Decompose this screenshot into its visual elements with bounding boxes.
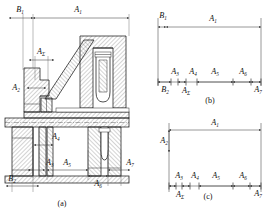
chain-b-label-ASigma: AΣ — [181, 86, 190, 96]
figure-svg: B1 A1 AΣ A2 A4 A3 A5 A6 A7 — [0, 0, 268, 214]
chain-b-label-A4: A4 — [188, 67, 197, 77]
upper-right-bore — [95, 52, 111, 102]
chain-c-label-A4: A4 — [190, 171, 199, 181]
dim-label-a-A2: A2 — [11, 83, 20, 93]
chain-b-label-B1: B1 — [159, 11, 167, 21]
caption-c: (c) — [204, 192, 213, 201]
horizontal-flange — [5, 118, 129, 127]
mid-right-plate — [56, 108, 129, 112]
left-rib-body — [39, 127, 46, 176]
panel-b: B1 A1 A3 A4 A5 A6 B2 AΣ A7 (b) — [158, 11, 262, 105]
base-plate — [5, 176, 129, 183]
dim-label-a-B1: B1 — [16, 5, 24, 15]
left-column-body — [12, 127, 33, 176]
caption-b: (b) — [205, 96, 215, 105]
right-boss-groove — [99, 128, 110, 132]
base-plate-body — [5, 176, 129, 183]
panel-a: B1 A1 AΣ A2 A4 A3 A5 A6 A7 — [2, 2, 134, 208]
dim-label-a-A7: A7 — [125, 158, 134, 168]
chain-c-label-ASigma: AΣ — [175, 190, 184, 200]
chain-b-label-B2: B2 — [161, 85, 169, 95]
dim-label-a-A5: A5 — [62, 158, 71, 168]
upper-base-strip-body — [24, 112, 129, 118]
left-housing-column — [12, 127, 33, 176]
right-boss-wall-left — [88, 127, 101, 176]
upper-base-strip — [24, 112, 129, 118]
dim-label-a-A4: A4 — [51, 132, 60, 142]
chain-c-label-A6: A6 — [238, 171, 247, 181]
chain-b-label-A1: A1 — [208, 14, 217, 24]
chain-c-label-A2: A2 — [159, 136, 168, 146]
right-boss-wall-right — [108, 127, 121, 176]
dim-label-a-ASigma: AΣ — [36, 47, 45, 57]
chain-b-label-A6: A6 — [238, 67, 247, 77]
dim-label-a-A1: A1 — [73, 5, 82, 15]
left-rib — [39, 127, 53, 176]
chain-c-label-A5: A5 — [211, 171, 220, 181]
chain-b-label-A7: A7 — [253, 85, 262, 95]
upper-small-insert — [41, 98, 52, 112]
chain-c-label-A3: A3 — [174, 171, 183, 181]
right-boss-lower — [88, 127, 121, 176]
panel-c: A1 A2 A3 A4 A5 A6 AΣ A7 (c) — [159, 118, 262, 201]
chain-c-label-A1: A1 — [210, 118, 219, 128]
technical-drawing-figure: B1 A1 AΣ A2 A4 A3 A5 A6 A7 — [0, 0, 268, 214]
chain-b-label-A5: A5 — [210, 67, 219, 77]
mid-right-plate-body — [56, 108, 129, 112]
chain-b-label-A3: A3 — [170, 67, 179, 77]
upper-bore-sleeve — [99, 60, 107, 92]
caption-a: (a) — [58, 199, 67, 208]
